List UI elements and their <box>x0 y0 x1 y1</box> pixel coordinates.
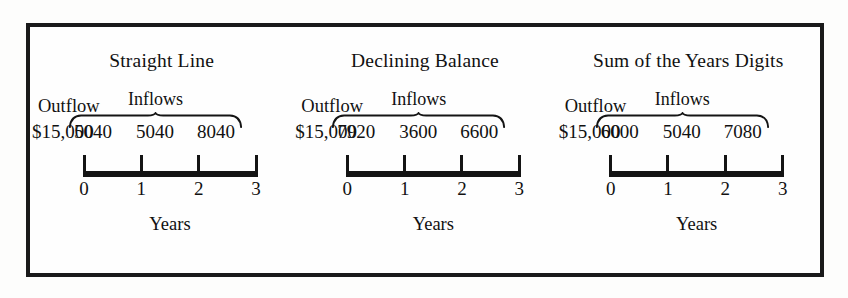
inflow-amount: 3600 <box>399 122 437 141</box>
year-label: 2 <box>721 179 731 198</box>
axis-caption: Years <box>347 215 519 234</box>
year-label: 1 <box>400 179 410 198</box>
inflow-amount: 5040 <box>136 122 174 141</box>
year-label: 2 <box>457 179 467 198</box>
inflow-amount: 8040 <box>197 122 235 141</box>
timeline-bar <box>347 171 519 177</box>
inflows-label: Inflows <box>596 90 769 108</box>
timeline-bar <box>84 171 256 177</box>
panel-declining-balance: Declining Balance Outflow $15,000 Inflow… <box>293 27 556 273</box>
figure-frame: Straight Line Outflow $15,000 Inflows 50… <box>26 23 824 277</box>
inflow-amount: 7080 <box>724 122 762 141</box>
year-label-row: 0 1 2 3 <box>611 179 783 203</box>
axis-caption: Years <box>84 215 256 234</box>
timeline-tick-2 <box>724 155 727 177</box>
inflow-amount: 6000 <box>601 122 639 141</box>
year-label: 2 <box>194 179 204 198</box>
timeline-tick-1 <box>140 155 143 177</box>
panel-row: Straight Line Outflow $15,000 Inflows 50… <box>30 27 820 273</box>
timeline-tick-2 <box>460 155 463 177</box>
panel-title: Declining Balance <box>293 51 556 71</box>
timeline-tick-3 <box>255 155 258 177</box>
year-label: 1 <box>663 179 673 198</box>
inflows-label: Inflows <box>332 90 505 108</box>
timeline-tick-0 <box>609 155 612 177</box>
timeline-axis <box>347 151 519 177</box>
timeline-axis <box>611 151 783 177</box>
inflows-label: Inflows <box>69 90 242 108</box>
panel-title: Sum of the Years Digits <box>557 51 820 71</box>
timeline-tick-0 <box>346 155 349 177</box>
timeline-tick-1 <box>666 155 669 177</box>
year-label-row: 0 1 2 3 <box>84 179 256 203</box>
inflow-amount-row: 7920 3600 6600 <box>293 122 556 144</box>
year-label: 0 <box>79 179 89 198</box>
timeline-tick-1 <box>403 155 406 177</box>
year-label: 3 <box>515 179 525 198</box>
inflow-amount: 6600 <box>460 122 498 141</box>
year-label: 1 <box>137 179 147 198</box>
timeline-tick-3 <box>781 155 784 177</box>
year-label: 0 <box>343 179 353 198</box>
timeline-tick-3 <box>518 155 521 177</box>
axis-caption: Years <box>611 215 783 234</box>
panel-straight-line: Straight Line Outflow $15,000 Inflows 50… <box>30 27 293 273</box>
timeline-bar <box>611 171 783 177</box>
timeline-tick-0 <box>83 155 86 177</box>
inflow-amount-row: 6000 5040 7080 <box>557 122 820 144</box>
timeline-axis <box>84 151 256 177</box>
year-label: 3 <box>251 179 261 198</box>
timeline-tick-2 <box>197 155 200 177</box>
panel-title: Straight Line <box>30 51 293 71</box>
year-label-row: 0 1 2 3 <box>347 179 519 203</box>
inflow-amount: 5040 <box>663 122 701 141</box>
panel-sum-of-years-digits: Sum of the Years Digits Outflow $15,000 … <box>557 27 820 273</box>
year-label: 3 <box>778 179 788 198</box>
year-label: 0 <box>606 179 616 198</box>
inflow-amount: 5040 <box>74 122 112 141</box>
inflow-amount-row: 5040 5040 8040 <box>30 122 293 144</box>
inflow-amount: 7920 <box>337 122 375 141</box>
